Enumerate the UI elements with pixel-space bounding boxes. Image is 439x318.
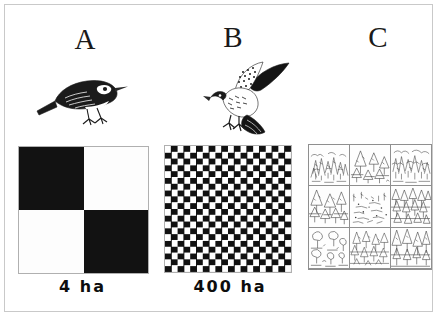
checker-cell-top-left — [19, 147, 84, 210]
sketch-cell-top-left — [308, 144, 350, 186]
sketch-cell-bottom-center — [349, 227, 391, 269]
panel-a-checkerboard — [18, 146, 149, 274]
panel-letter-a: A — [65, 25, 105, 54]
songbird-perched-icon — [35, 67, 135, 129]
sketch-cell-middle-center — [349, 185, 391, 227]
sketch-cell-middle-right — [390, 185, 432, 227]
panel-c-sketch-mosaic — [308, 144, 433, 270]
panel-letter-b: B — [213, 23, 253, 52]
figure-border: A B C — [4, 4, 433, 312]
panel-a-size-label: 4 ha — [15, 277, 150, 296]
sketch-cell-bottom-right — [390, 227, 432, 269]
sketch-cell-bottom-left — [308, 227, 350, 269]
checker-cell-bottom-left — [19, 210, 84, 273]
sketch-cell-middle-left — [308, 185, 350, 227]
checker-cell-bottom-right — [84, 210, 149, 273]
panel-b-size-label: 400 ha — [160, 277, 300, 296]
raptor-hawk-icon — [195, 60, 295, 138]
sketch-cell-top-right — [390, 144, 432, 186]
figure-canvas: A B C — [0, 0, 439, 318]
sketch-cell-top-center — [349, 144, 391, 186]
checker-cell-top-right — [84, 147, 149, 210]
panel-b-checkerboard — [164, 145, 292, 273]
panel-letter-c: C — [358, 23, 398, 52]
